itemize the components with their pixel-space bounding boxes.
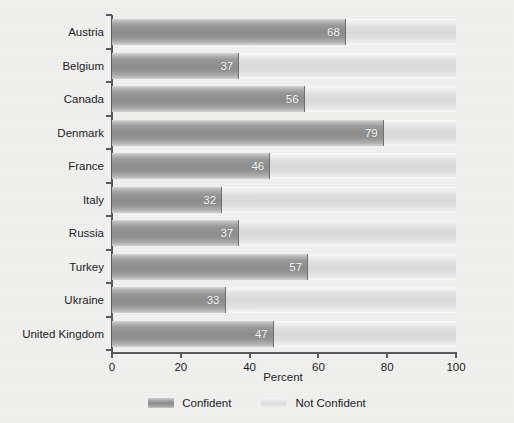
category-label-france: France (4, 153, 104, 179)
bar-track: 79 (112, 120, 456, 146)
category-label-italy: Italy (4, 187, 104, 213)
stacked-bar-chart: Austria68Belgium37Canada56Denmark79Franc… (0, 0, 514, 423)
bar-row: France46 (112, 153, 456, 179)
bar-row: Canada56 (112, 86, 456, 112)
y-axis-tick (106, 249, 112, 251)
bar-row: Denmark79 (112, 120, 456, 146)
bar-value-label: 57 (286, 254, 302, 280)
legend-swatch-not-confident (261, 398, 287, 408)
bar-row: Russia37 (112, 220, 456, 246)
bar-segment-not-confident[interactable] (384, 120, 456, 146)
bar-value-label: 33 (204, 287, 220, 313)
category-label-ukraine: Ukraine (4, 287, 104, 313)
bar-segment-not-confident[interactable] (346, 19, 456, 45)
x-axis-tick (386, 352, 388, 358)
y-axis-tick (106, 48, 112, 50)
bar-segment-not-confident[interactable] (274, 321, 456, 347)
bar-segment-not-confident[interactable] (308, 254, 456, 280)
bar-value-label: 37 (217, 220, 233, 246)
bar-segment-confident[interactable] (112, 120, 384, 146)
bar-segment-not-confident[interactable] (226, 287, 456, 313)
y-axis-tick (106, 282, 112, 284)
bar-segment-not-confident[interactable] (270, 153, 456, 179)
category-label-turkey: Turkey (4, 254, 104, 280)
y-axis-tick (106, 349, 112, 351)
bar-segment-confident[interactable] (112, 254, 308, 280)
x-axis-tick (180, 352, 182, 358)
y-axis-tick (106, 81, 112, 83)
bar-value-label: 68 (324, 19, 340, 45)
bar-segment-confident[interactable] (112, 321, 274, 347)
y-axis-tick (106, 148, 112, 150)
bar-row: Italy32 (112, 187, 456, 213)
bar-value-label: 32 (200, 187, 216, 213)
y-axis-tick (106, 182, 112, 184)
bar-value-label: 46 (248, 153, 264, 179)
bar-value-label: 47 (252, 321, 268, 347)
x-axis-tick (111, 352, 113, 358)
x-axis-tick (249, 352, 251, 358)
bar-track: 37 (112, 53, 456, 79)
bar-track: 68 (112, 19, 456, 45)
bar-segment-not-confident[interactable] (239, 53, 456, 79)
bar-value-label: 79 (362, 120, 378, 146)
category-label-canada: Canada (4, 86, 104, 112)
category-label-russia: Russia (4, 220, 104, 246)
y-axis-tick (106, 14, 112, 16)
bar-track: 33 (112, 287, 456, 313)
category-label-denmark: Denmark (4, 120, 104, 146)
x-axis-title-text: Percent (263, 371, 303, 383)
chart-legend: Confident Not Confident (0, 397, 514, 409)
bar-track: 56 (112, 86, 456, 112)
bar-row: United Kingdom47 (112, 321, 456, 347)
bar-row: Turkey57 (112, 254, 456, 280)
bar-track: 57 (112, 254, 456, 280)
bar-segment-not-confident[interactable] (222, 187, 456, 213)
plot-area: Austria68Belgium37Canada56Denmark79Franc… (112, 15, 456, 352)
bar-value-label: 37 (217, 53, 233, 79)
y-axis-tick (106, 115, 112, 117)
bar-segment-not-confident[interactable] (305, 86, 456, 112)
bar-track: 37 (112, 220, 456, 246)
bar-segment-confident[interactable] (112, 153, 270, 179)
bar-segment-confident[interactable] (112, 19, 346, 45)
bar-row: Austria68 (112, 19, 456, 45)
legend-swatch-confident (148, 398, 174, 408)
bar-track: 47 (112, 321, 456, 347)
x-axis-tick (317, 352, 319, 358)
legend-item-confident: Confident (148, 397, 231, 409)
category-label-austria: Austria (4, 19, 104, 45)
bar-row: Ukraine33 (112, 287, 456, 313)
bar-track: 32 (112, 187, 456, 213)
y-axis-tick (106, 316, 112, 318)
bar-segment-not-confident[interactable] (239, 220, 456, 246)
category-label-belgium: Belgium (4, 53, 104, 79)
legend-item-not-confident: Not Confident (261, 397, 365, 409)
bar-track: 46 (112, 153, 456, 179)
bar-value-label: 56 (283, 86, 299, 112)
x-axis-title: Percent (0, 371, 514, 383)
legend-label-confident: Confident (182, 397, 231, 409)
y-axis-tick (106, 215, 112, 217)
x-axis-line (111, 352, 457, 354)
bar-segment-confident[interactable] (112, 86, 305, 112)
bar-row: Belgium37 (112, 53, 456, 79)
x-axis-tick (455, 352, 457, 358)
category-label-united-kingdom: United Kingdom (4, 321, 104, 347)
legend-label-not-confident: Not Confident (295, 397, 365, 409)
